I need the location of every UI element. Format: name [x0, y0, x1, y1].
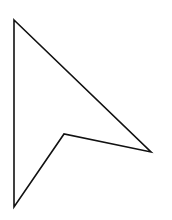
canvas — [0, 0, 172, 220]
arrow-cursor-icon — [0, 0, 172, 220]
arrow-cursor-outline — [14, 20, 151, 207]
